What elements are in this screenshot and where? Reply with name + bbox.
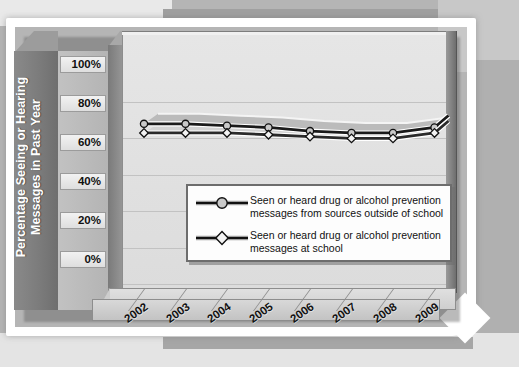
chart-container: Percentage Seeing or Hearing Messages in… (14, 27, 462, 322)
legend-label-line1: Seen or heard drug or alcohol prevention (250, 194, 443, 207)
y-axis-tick-label: 100% (60, 56, 106, 73)
legend-label-at-school: Seen or heard drug or alcohol prevention… (250, 228, 441, 254)
legend-label-line2: messages at school (250, 242, 441, 255)
axis-wall-top-bevel (14, 31, 58, 53)
y-axis-tick-label: 20% (60, 212, 106, 229)
y-axis-title-wall: Percentage Seeing or Hearing Messages in… (14, 51, 58, 310)
legend-item-at-school[interactable]: Seen or heard drug or alcohol prevention… (194, 228, 444, 254)
chart-legend: Seen or heard drug or alcohol prevention… (186, 184, 452, 262)
circle-marker-icon (194, 193, 250, 213)
legend-label-line1: Seen or heard drug or alcohol prevention (250, 229, 441, 242)
axis-riser (108, 45, 122, 310)
data-point-marker (140, 129, 149, 138)
y-axis-tick-label: 40% (60, 173, 106, 190)
y-axis-tick-label: 80% (60, 95, 106, 112)
data-point-marker (182, 120, 189, 127)
legend-label-outside-school: Seen or heard drug or alcohol prevention… (250, 193, 443, 219)
data-point-marker (140, 120, 147, 127)
diamond-marker-icon (194, 228, 250, 248)
decorative-band-right (473, 60, 519, 337)
legend-label-line2: messages from sources outside of school (250, 207, 443, 220)
y-axis-tick-column: 100%80%60%40%20%0% (58, 51, 108, 310)
legend-item-outside-school[interactable]: Seen or heard drug or alcohol prevention… (194, 193, 444, 219)
y-axis-tick-label: 0% (60, 251, 106, 268)
y-axis-tick-label: 60% (60, 134, 106, 151)
decorative-band-bottom-dark (163, 337, 473, 349)
y-axis-title: Percentage Seeing or Hearing Messages in… (14, 59, 58, 275)
